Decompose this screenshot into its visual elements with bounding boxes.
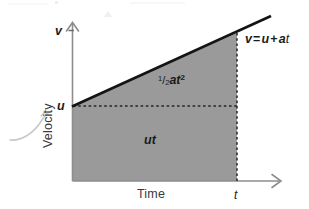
upper-area-exponent: 2 <box>181 73 185 82</box>
upper-area-variables: at2 <box>169 73 185 87</box>
y-axis-label: Velocity <box>42 103 55 148</box>
x-tick-label-t: t <box>234 189 237 201</box>
scan-artifacts <box>8 1 185 17</box>
equation-t: t <box>286 32 290 46</box>
y-intercept-label-u: u <box>57 100 65 113</box>
shaded-area-under-curve <box>73 33 237 181</box>
fraction-one-half: 1/2 <box>158 74 169 86</box>
equation-label: v=u+at <box>245 33 289 46</box>
lower-area-label: ut <box>144 134 156 147</box>
y-tick-label-v: v <box>55 25 62 38</box>
x-axis-label: Time <box>137 188 165 201</box>
equation-v: v <box>245 32 252 46</box>
equation-plus: + <box>269 32 278 46</box>
upper-area-label: 1/2at2 <box>158 74 185 87</box>
equation-a: a <box>279 32 286 46</box>
velocity-time-graph-figure: v u Velocity Time t v=u+at 1/2at2 ut <box>0 0 309 209</box>
upper-area-at: at <box>169 73 180 87</box>
